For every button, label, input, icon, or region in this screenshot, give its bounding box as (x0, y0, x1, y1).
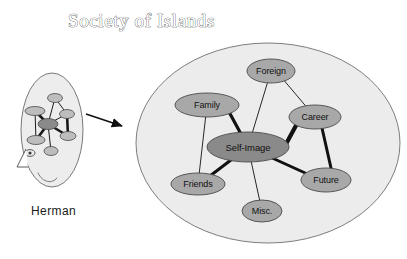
node-future-label: Future (313, 175, 339, 185)
society-of-islands-diagram: Society of Islands (0, 0, 407, 259)
node-foreign-label: Foreign (256, 66, 286, 76)
node-self-image[interactable]: Self-Image (207, 132, 289, 162)
inner-node-right-lower (60, 132, 76, 141)
node-self-image-label: Self-Image (226, 142, 271, 153)
inner-node-bottom (44, 147, 58, 156)
inner-node-right-upper (60, 110, 75, 119)
node-misc[interactable]: Misc. (242, 200, 282, 222)
node-misc-label: Misc. (252, 206, 273, 216)
node-friends[interactable]: Friends (171, 173, 225, 195)
page-title: Society of Islands (68, 10, 215, 31)
node-foreign[interactable]: Foreign (247, 59, 295, 83)
inner-node-top (48, 94, 63, 103)
node-career-label: Career (302, 112, 329, 122)
pupil-icon (28, 151, 31, 154)
node-family-label: Family (194, 100, 220, 110)
herman-head-outline (21, 73, 83, 187)
inner-node-lower-left (27, 136, 45, 145)
inner-node-center (38, 119, 58, 130)
node-friends-label: Friends (183, 179, 213, 189)
herman-group: Herman (17, 73, 83, 218)
node-career[interactable]: Career (289, 105, 341, 129)
figure-canvas: Society of Islands (0, 0, 407, 259)
herman-caption: Herman (31, 204, 76, 218)
maps-to-arrow-icon (86, 114, 122, 126)
node-future[interactable]: Future (301, 168, 351, 192)
node-family[interactable]: Family (175, 93, 239, 117)
inner-node-left (25, 107, 45, 116)
